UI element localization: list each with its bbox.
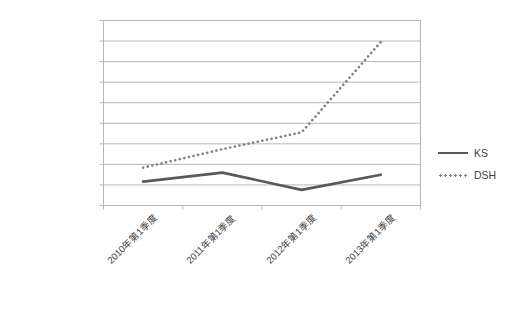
x-axis-tick-label: 2012年第1季度 [264, 211, 318, 265]
x-axis-tick-label: 2010年第1季度 [105, 211, 159, 265]
legend-item-ks[interactable]: KS [438, 142, 514, 164]
x-axis-tick-label: 2013年第1季度 [343, 211, 397, 265]
legend-item-dsh[interactable]: DSH [438, 164, 514, 186]
line-chart: ¥450,000.00¥400,000.00¥350,000.00¥300,00… [0, 0, 516, 311]
legend-label-ks: KS [474, 147, 488, 159]
solid-line-key-icon [438, 148, 468, 158]
chart-legend: KS DSH [438, 142, 514, 186]
x-axis-tick-label: 2011年第1季度 [184, 212, 238, 266]
dotted-line-key-icon [438, 170, 468, 180]
legend-label-dsh: DSH [474, 169, 496, 181]
